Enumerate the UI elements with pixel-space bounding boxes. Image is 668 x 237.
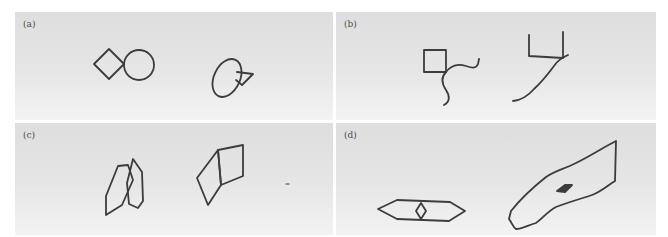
- ellipse-shape: [207, 54, 247, 101]
- panel-b: (b): [336, 12, 656, 120]
- diamond-shape: [94, 49, 124, 79]
- small-diamond-shape: [236, 72, 253, 85]
- panel-d: (d): [336, 123, 656, 235]
- square-shape: [424, 50, 446, 72]
- panel-c-drawing: [15, 123, 333, 235]
- panel-a-drawing: [15, 12, 333, 120]
- wavy-curve-vertical: [442, 72, 449, 105]
- filled-diamond: [557, 185, 572, 192]
- hexagon-right: [127, 159, 143, 208]
- wavy-curve-horizontal: [446, 59, 479, 72]
- panel-d-drawing: [336, 123, 656, 235]
- panel-a: (a): [15, 12, 333, 120]
- u-shape: [529, 32, 563, 58]
- quadrilateral-right: [218, 145, 243, 185]
- circle-shape: [124, 50, 154, 80]
- panel-c: (c): [15, 123, 333, 235]
- panel-b-drawing: [336, 12, 656, 120]
- quadrilateral-left: [197, 150, 221, 205]
- center-diamond: [416, 203, 426, 219]
- irregular-polygon: [509, 141, 616, 229]
- diagonal-line: [513, 55, 568, 101]
